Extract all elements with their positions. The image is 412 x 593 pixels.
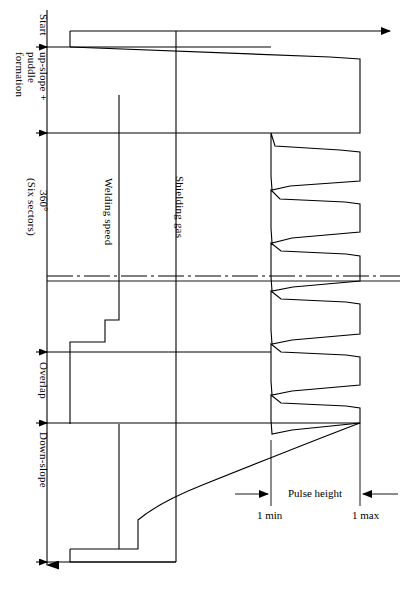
pulse-block-start (70, 47, 360, 133)
label-downslope: Down-slope (38, 432, 50, 488)
label-pulse-height: Pulse height (288, 487, 342, 499)
pulse-sector-3 (271, 243, 360, 291)
diagram-canvas (0, 0, 412, 593)
label-upslope: up-slope + (38, 52, 50, 101)
label-1-max: 1 max (352, 509, 379, 521)
label-puddle-formation: puddle (26, 52, 38, 83)
label-six-sectors: (Six sectors) (26, 178, 38, 236)
downslope-curve (70, 423, 360, 549)
label-start: Start (38, 14, 50, 36)
pulse-sector-5 (271, 344, 360, 395)
label-overlap: Overlap (38, 362, 50, 399)
label-shielding-gas: Shielding gas (174, 176, 186, 238)
welding-timing-diagram: Start up-slope + puddle formation 360° (… (0, 0, 412, 593)
welding-speed-trace (70, 95, 119, 424)
label-360-degrees: 360° (38, 190, 50, 212)
pulse-sector-1 (271, 133, 360, 190)
label-1-min: 1 min (257, 509, 282, 521)
pulse-sector-2 (271, 190, 360, 243)
label-formation: formation (14, 52, 26, 97)
label-welding-speed: Welding speed (103, 178, 115, 245)
downslope-bottom-box (70, 549, 176, 562)
pulse-sector-4 (271, 291, 360, 344)
